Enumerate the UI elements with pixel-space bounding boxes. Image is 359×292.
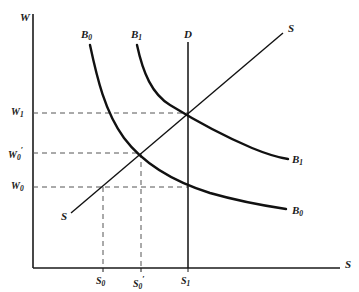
curve-label-s-start: S: [61, 211, 67, 222]
y-tick-w1-base: W: [11, 106, 20, 117]
x-tick-s0-prime: S0′: [133, 276, 145, 289]
curve-label-b0-end: B0: [292, 205, 303, 216]
y-axis-label: W: [20, 12, 30, 23]
curve-label-b1-end-sub: 1: [299, 158, 303, 167]
y-tick-w1: W1: [11, 107, 24, 117]
curve-label-b1-top-sub: 1: [138, 33, 142, 42]
y-tick-w0-sub: 0: [20, 184, 24, 193]
figure-canvas: [0, 0, 359, 292]
x-tick-s0-base: S: [96, 275, 102, 286]
y-tick-w0-prime-base: W: [8, 149, 17, 160]
x-tick-s0-prime-base: S: [133, 278, 139, 289]
x-tick-s1: S1: [181, 276, 190, 286]
curve-label-b1-end: B1: [292, 154, 303, 165]
x-tick-s0-sub: 0: [102, 279, 106, 288]
guide-lines-group: [33, 113, 188, 268]
x-tick-s0-prime-mark: ′: [142, 274, 145, 284]
y-tick-w0-prime-mark: ′: [21, 145, 24, 155]
x-axis-label: S: [345, 259, 351, 270]
y-tick-w1-sub: 1: [20, 110, 24, 119]
curve-label-b1-top: B1: [131, 29, 142, 40]
axis-group: [33, 14, 340, 268]
x-tick-s0: S0: [96, 276, 105, 286]
y-tick-w0: W0: [11, 181, 24, 191]
x-tick-s1-sub: 1: [187, 279, 191, 288]
curve-label-b0-top: B0: [81, 29, 92, 40]
curve-label-d: D: [184, 29, 192, 40]
economics-supply-demand-figure: W S W1 W0′ W0 S0 S0′ S1 B0 B1 D S S B1 B…: [0, 0, 359, 292]
y-tick-w0-base: W: [11, 180, 20, 191]
curve-b1: [137, 45, 288, 159]
curve-label-b0-end-sub: 0: [299, 209, 303, 218]
curve-label-b0-top-sub: 0: [88, 33, 92, 42]
x-tick-s1-base: S: [181, 275, 187, 286]
y-tick-w0-prime: W0′: [8, 147, 23, 160]
supply-line-s: [71, 33, 283, 213]
curve-label-s-top: S: [288, 23, 294, 34]
